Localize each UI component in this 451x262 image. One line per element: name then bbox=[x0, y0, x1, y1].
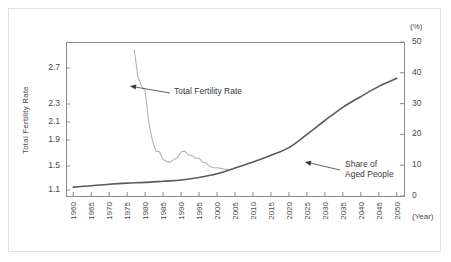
annotation-share-aged-people: Share of Aged People bbox=[345, 159, 394, 179]
plot-area bbox=[0, 0, 451, 262]
arrow-tfr-leader bbox=[135, 87, 170, 93]
chart-figure: Total Fertility Rate (%) (Year) 2.72.32.… bbox=[0, 0, 451, 262]
annotation-tfr-label: Total Fertility Rate bbox=[174, 86, 242, 96]
arrow-aged-leader bbox=[310, 163, 340, 170]
annotation-total-fertility-rate: Total Fertility Rate bbox=[174, 86, 242, 96]
annotation-aged-label-2: Aged People bbox=[345, 169, 394, 179]
arrow-tfr-head bbox=[130, 85, 136, 90]
series-total-fertility-rate bbox=[134, 50, 228, 170]
annotation-aged-label-1: Share of bbox=[345, 159, 377, 169]
arrow-aged-head bbox=[305, 161, 311, 166]
